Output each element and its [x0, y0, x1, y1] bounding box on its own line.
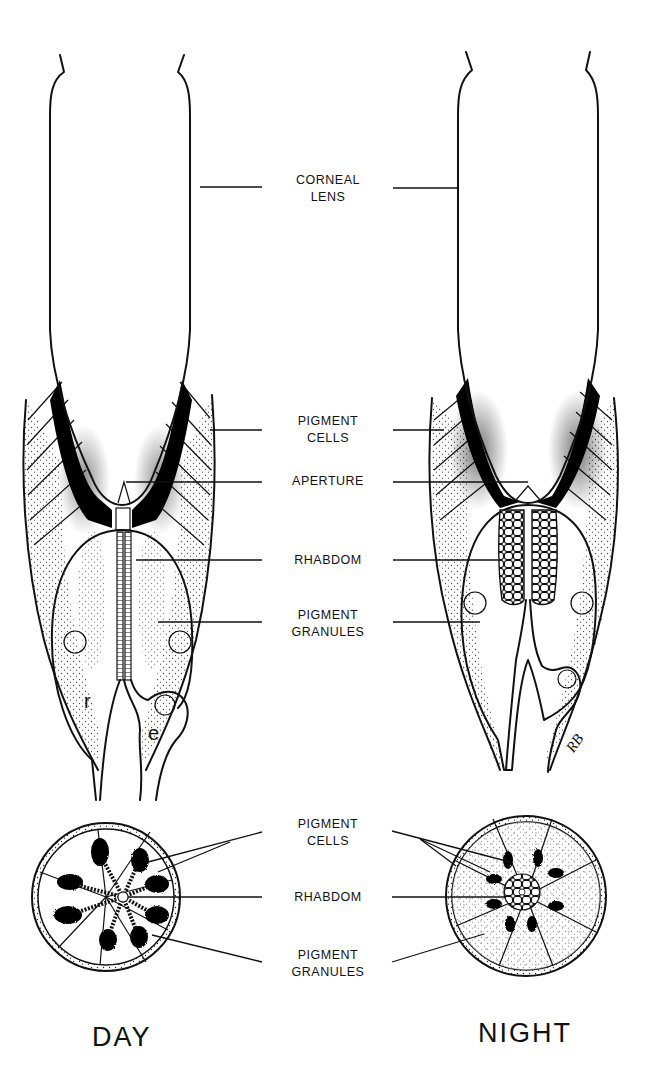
label-rhabdom: RHABDOM [258, 552, 398, 569]
ommatidium-diagram [0, 0, 652, 1077]
night-cross-section [446, 816, 606, 976]
day-rhabdom [117, 532, 123, 680]
day-aperture [116, 508, 130, 530]
label-aperture: APERTURE [258, 473, 398, 490]
label-pigment-granules: PIGMENT GRANULES [258, 607, 398, 641]
column-label-night: NIGHT [478, 1018, 572, 1049]
night-corneal-lens [458, 52, 598, 503]
label-xs-pigment-granules: PIGMENT GRANULES [258, 947, 398, 981]
label-corneal-lens: CORNEAL LENS [258, 172, 398, 206]
label-xs-pigment-cells: PIGMENT CELLS [258, 816, 398, 850]
night-rhabdom [499, 510, 524, 605]
retinula-cell-letter: r [84, 690, 91, 713]
label-pigment-cells: PIGMENT CELLS [258, 413, 398, 447]
eccentric-cell-letter: e [148, 722, 159, 745]
night-ommatidium [429, 52, 618, 772]
label-xs-rhabdom: RHABDOM [258, 889, 398, 906]
day-ommatidium [23, 55, 214, 800]
column-label-day: DAY [92, 1022, 152, 1053]
